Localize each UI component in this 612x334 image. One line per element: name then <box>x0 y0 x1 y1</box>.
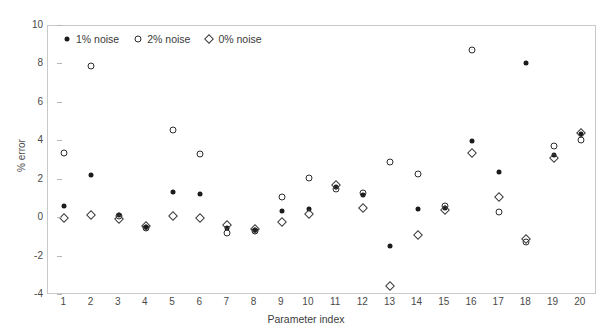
legend-label: 1% noise <box>76 33 119 45</box>
x-axis-tick-labels: 1234567891011121314151617181920 <box>47 296 596 312</box>
x-axis-tick-label: 13 <box>384 296 395 307</box>
marker-open-circle <box>387 159 394 166</box>
marker-open-diamond <box>494 192 504 202</box>
y-axis-tick-mark <box>57 179 62 180</box>
marker-open-diamond <box>358 203 368 213</box>
marker-open-diamond <box>576 128 586 138</box>
marker-filled-circle <box>64 37 69 42</box>
legend-item: 0% noise <box>204 33 261 45</box>
marker-filled-circle <box>469 139 474 144</box>
marker-open-diamond <box>222 220 232 230</box>
marker-open-circle <box>88 63 95 70</box>
x-axis-title: Parameter index <box>0 313 612 325</box>
legend-marker <box>62 35 71 44</box>
y-axis-tick-label: 8 <box>17 58 43 68</box>
marker-open-diamond <box>440 206 450 216</box>
chart-legend: 1% noise2% noise0% noise <box>62 33 262 45</box>
marker-open-circle <box>278 194 285 201</box>
legend-item: 2% noise <box>133 33 190 45</box>
y-axis-tick-mark <box>57 63 62 64</box>
y-axis-tick-mark <box>57 102 62 103</box>
marker-open-circle <box>468 47 475 54</box>
marker-filled-circle <box>279 209 284 214</box>
chart-page: 1086420-2-4 % error 12345678910111213141… <box>0 0 612 334</box>
y-axis-tick-label: 6 <box>17 97 43 107</box>
marker-open-diamond <box>304 209 314 219</box>
marker-filled-circle <box>388 244 393 249</box>
x-axis-tick-label: 2 <box>88 296 94 307</box>
marker-open-circle <box>550 143 557 150</box>
marker-filled-circle <box>524 61 529 66</box>
x-axis-tick-label: 8 <box>251 296 257 307</box>
marker-open-diamond <box>385 281 395 291</box>
x-axis-tick-label: 16 <box>465 296 476 307</box>
marker-open-circle <box>61 149 68 156</box>
marker-filled-circle <box>171 190 176 195</box>
marker-open-circle <box>170 126 177 133</box>
marker-open-diamond <box>467 148 477 158</box>
marker-open-diamond <box>59 213 69 223</box>
x-axis-tick-label: 19 <box>547 296 558 307</box>
marker-open-circle <box>360 190 367 197</box>
marker-open-diamond <box>195 213 205 223</box>
x-axis-tick-label: 4 <box>142 296 148 307</box>
marker-filled-circle <box>62 203 67 208</box>
legend-label: 0% noise <box>218 33 261 45</box>
y-axis-tick-mark <box>57 140 62 141</box>
marker-filled-circle <box>198 192 203 197</box>
y-axis-tick-mark <box>57 25 62 26</box>
y-axis-tick-mark <box>57 294 62 295</box>
y-axis-tick-label: 10 <box>17 20 43 30</box>
x-axis-tick-label: 6 <box>196 296 202 307</box>
y-axis-tick-label: 0 <box>17 212 43 222</box>
marker-filled-circle <box>497 170 502 175</box>
marker-open-circle <box>134 36 141 43</box>
marker-open-diamond <box>277 217 287 227</box>
x-axis-tick-label: 12 <box>357 296 368 307</box>
x-axis-tick-label: 14 <box>411 296 422 307</box>
x-axis-tick-label: 11 <box>330 296 340 307</box>
legend-item: 1% noise <box>62 33 119 45</box>
x-axis-tick-label: 18 <box>520 296 531 307</box>
plot-area <box>48 26 595 293</box>
marker-open-circle <box>224 229 231 236</box>
marker-filled-circle <box>89 172 94 177</box>
x-axis-tick-label: 5 <box>169 296 175 307</box>
y-axis-tick-label: -2 <box>17 251 43 261</box>
marker-open-diamond <box>413 230 423 240</box>
x-axis-tick-label: 3 <box>115 296 121 307</box>
marker-open-diamond <box>168 211 178 221</box>
x-axis-tick-label: 20 <box>574 296 585 307</box>
y-axis-title: % error <box>16 126 27 186</box>
legend-label: 2% noise <box>147 33 190 45</box>
x-axis-tick-label: 7 <box>224 296 230 307</box>
marker-open-circle <box>305 174 312 181</box>
y-axis-tick-label: -4 <box>17 289 43 299</box>
x-axis-tick-label: 17 <box>493 296 504 307</box>
y-axis-tick-mark <box>57 256 62 257</box>
marker-open-diamond <box>204 34 214 44</box>
marker-open-circle <box>496 209 503 216</box>
y-axis-tick-mark <box>57 217 62 218</box>
x-axis-tick-label: 9 <box>278 296 284 307</box>
marker-filled-circle <box>415 206 420 211</box>
marker-open-circle <box>197 150 204 157</box>
legend-marker <box>204 35 213 44</box>
x-axis-tick-label: 15 <box>438 296 449 307</box>
marker-open-circle <box>414 170 421 177</box>
legend-marker <box>133 35 142 44</box>
x-axis-tick-label: 1 <box>61 296 67 307</box>
x-axis-tick-label: 10 <box>302 296 313 307</box>
plot-frame <box>47 25 596 294</box>
marker-open-diamond <box>87 210 97 220</box>
